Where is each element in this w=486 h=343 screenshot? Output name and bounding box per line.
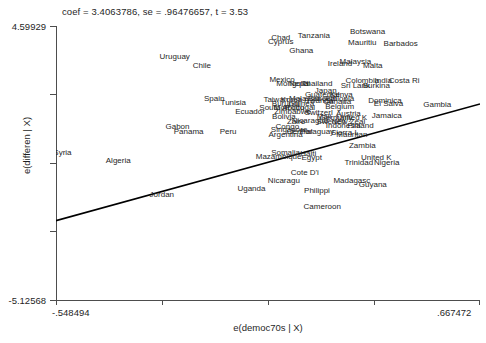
x-axis-tick-right [479, 300, 480, 305]
data-point-label: Jamaica [372, 111, 402, 120]
x-axis-tick-label-right: .667472 [437, 307, 471, 318]
data-point-label: Tanzania [298, 31, 330, 40]
data-point-label: Nigeria [374, 157, 399, 166]
data-point-label: Cyprus [268, 37, 293, 46]
data-point-label: Jordan [150, 190, 174, 199]
x-axis-tick-left [56, 300, 57, 305]
data-point-label: Gambia [423, 100, 451, 109]
data-point-label: Cameroon [304, 201, 341, 210]
y-axis-title: e(differen | X) [21, 98, 32, 194]
data-point-label: Chile [193, 60, 211, 69]
data-point-label: Philippi [304, 185, 330, 194]
data-point-label: Mauritiu [348, 38, 376, 47]
coefficient-annotation: coef = 3.4063786, se = .96476657, t = 3.… [62, 6, 248, 17]
data-point-label: Peru [220, 126, 237, 135]
scatter-plot-figure: coef = 3.4063786, se = .96476657, t = 3.… [0, 0, 486, 343]
data-point-label: Trinidad [345, 157, 374, 166]
data-point-label: Uruguay [160, 51, 190, 60]
data-point-label: El Salva [374, 99, 403, 108]
data-point-label: Mazambique [256, 152, 302, 161]
data-point-label: Burkina [363, 81, 390, 90]
x-axis-tick-label-left: -.548494 [52, 307, 90, 318]
data-point-label: Ecuador [235, 106, 265, 115]
x-axis-tick-3 [268, 300, 269, 305]
data-point-label: Syria [56, 148, 72, 157]
data-point-label: Panama [174, 126, 204, 135]
x-axis-tick-4 [374, 300, 375, 305]
data-point-label: Uganda [237, 184, 265, 193]
data-point-label: Zambia [349, 140, 376, 149]
data-point-label: Egypt [302, 153, 322, 162]
plot-area: BotswanaChadCyprusTanzaniaMauritiuBarbad… [56, 26, 480, 300]
data-point-label: Barbados [384, 39, 418, 48]
y-axis-tick-label-bottom: -5.12568 [0, 295, 46, 306]
data-point-label: Argentina [268, 129, 302, 138]
y-axis-tick-label-top: 4.59929 [0, 21, 46, 32]
data-point-label: Botswana [350, 26, 385, 35]
data-point-label: Malta [363, 60, 383, 69]
data-point-label: Costa Ri [389, 76, 420, 85]
data-point-label: Algeria [106, 155, 131, 164]
data-point-label: Mauritan [336, 130, 367, 139]
x-axis-title: e(democ70s | X) [56, 322, 480, 333]
x-axis-tick-2 [162, 300, 163, 305]
data-point-label: Nicaragu [268, 176, 300, 185]
data-point-label: Paraguay [300, 127, 334, 136]
data-point-label: Ghana [289, 46, 313, 55]
data-point-label: Guyana [359, 180, 387, 189]
